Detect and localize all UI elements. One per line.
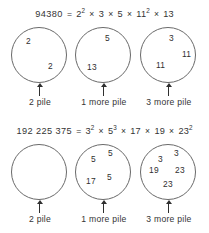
pile-circle: 2 2 [11,27,67,83]
pile-factor: 19 [149,166,159,175]
up-arrow-icon [164,200,173,213]
multiply-sign: × [144,126,152,136]
equation-row-1: 94380 = 22 × 3 × 5 × 112 × 13 [0,8,209,20]
equation-term: 19 [154,126,165,136]
multiply-sign: × [119,126,127,136]
pile-factor: 2 [48,62,53,71]
term-base: 13 [163,9,174,19]
equation-term: 232 [178,126,192,136]
pile-circle: 3 3 19 23 23 [140,144,196,200]
term-exponent: 3 [113,124,117,131]
equals-sign: = [75,126,83,136]
multiply-sign: × [88,9,96,19]
pile: 3 11 11 3 more pile [136,27,202,117]
pile-factor: 5 [108,149,113,158]
up-arrow-icon [99,83,108,96]
pile-circle: 3 11 11 [140,27,196,83]
term-exponent: 2 [189,124,193,131]
equation-term: 13 [163,9,174,19]
term-exponent: 2 [146,7,150,14]
equation-row-2: 192 225 375 = 32 × 53 × 17 × 19 × 232 [0,125,209,137]
equation-term: 53 [108,126,117,136]
equation-term: 22 [76,9,85,19]
pile-factor: 5 [107,173,112,182]
pile-factor: 2 [26,37,31,46]
equation-term: 3 [99,9,104,19]
pile-factor: 3 [158,155,163,164]
equation-term: 112 [136,9,149,19]
pile: 3 3 19 23 23 3 more pile [136,144,202,233]
up-arrow-icon [164,83,173,96]
pile-group: 2 2 2 pile 5 13 1 more pile [0,27,209,117]
term-base: 23 [178,126,189,136]
pile: 5 13 1 more pile [71,27,137,117]
pile-group: 2 pile 5 5 17 5 1 more pile 3 3 19 [0,144,209,233]
pile-factor: 11 [156,61,165,70]
equals-sign: = [65,9,73,19]
term-base: 5 [118,9,123,19]
term-base: 19 [154,126,165,136]
pile: 5 5 17 5 1 more pile [71,144,137,233]
pile: 2 2 2 pile [7,27,73,117]
multiply-sign: × [152,9,160,19]
pile-factor: 23 [175,166,185,175]
pile-factor: 5 [105,34,110,43]
pile-factor: 13 [87,63,97,72]
term-exponent: 2 [91,124,95,131]
equation-result: 94380 [35,9,63,19]
term-exponent: 2 [82,7,86,14]
pile-factor: 23 [163,180,173,189]
pile-factor: 3 [169,34,174,43]
term-base: 3 [99,9,104,19]
multiply-sign: × [97,126,105,136]
pile-label: 3 more pile [130,214,208,224]
up-arrow-icon [99,200,108,213]
pile-factor: 5 [91,155,96,164]
equation-term: 32 [86,126,95,136]
pile: 2 pile [7,144,73,233]
multiply-sign: × [168,126,176,136]
pile-circle: 5 5 17 5 [75,144,131,200]
pile-factor: 17 [86,177,96,186]
pile-factor: 11 [182,50,191,59]
pile-circle [11,144,67,200]
pile-factor: 3 [174,149,179,158]
equation-term: 17 [130,126,141,136]
equation-term: 5 [118,9,123,19]
multiply-sign: × [125,9,133,19]
pile-circle: 5 13 [75,27,131,83]
term-base: 11 [136,9,146,19]
multiply-sign: × [107,9,115,19]
equation-result: 192 225 375 [16,126,72,136]
term-base: 17 [130,126,141,136]
factorization-pile-diagram: 94380 = 22 × 3 × 5 × 112 × 13 2 2 2 pile [0,0,209,233]
pile-label: 3 more pile [130,97,208,107]
up-arrow-icon [35,83,44,96]
up-arrow-icon [35,200,44,213]
